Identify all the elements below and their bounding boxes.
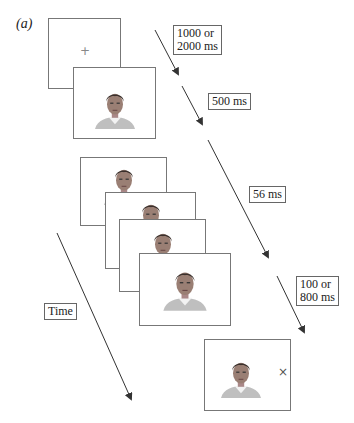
duration-label-sequence: 56 ms — [249, 186, 286, 203]
face-image — [217, 357, 265, 399]
label-line: 56 ms — [253, 188, 282, 201]
probe-x-icon: × — [278, 365, 288, 379]
face-frame — [73, 67, 156, 139]
duration-label-fixation: 1000 or 2000 ms — [173, 25, 222, 55]
duration-label-probe: 100 or 800 ms — [296, 276, 339, 306]
face-image — [91, 88, 139, 130]
time-label: Time — [44, 303, 77, 320]
face-image — [159, 266, 211, 312]
probe-frame: × — [204, 339, 291, 411]
duration-label-face: 500 ms — [208, 93, 251, 110]
sequence-frame-4 — [139, 253, 231, 326]
label-line: 2000 ms — [177, 40, 218, 53]
arrow-face — [182, 86, 202, 124]
label-line: 800 ms — [300, 291, 335, 304]
label-line: 500 ms — [212, 95, 247, 108]
fixation-cross-icon: + — [80, 44, 90, 58]
label-line: Time — [48, 305, 73, 318]
